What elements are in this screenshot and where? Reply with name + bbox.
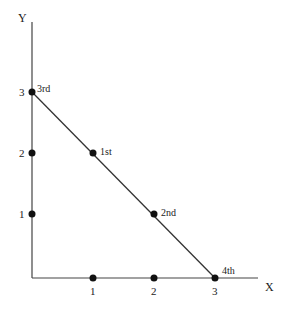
point-0-1 (29, 211, 36, 218)
x-tick-3: 3 (212, 285, 218, 297)
label-2nd: 2nd (161, 207, 176, 218)
point-0-2 (29, 150, 36, 157)
x-axis-label: X (265, 280, 274, 294)
point-1-0 (90, 275, 97, 282)
y-tick-2: 2 (19, 147, 25, 159)
label-1st: 1st (100, 146, 112, 157)
diagonal-line (32, 92, 215, 278)
x-tick-1: 1 (90, 285, 96, 297)
y-axis-label: Y (18, 11, 27, 25)
label-4th: 4th (222, 265, 235, 276)
label-3rd: 3rd (37, 83, 50, 94)
point-1-2 (90, 150, 97, 157)
point-3-0 (212, 275, 219, 282)
y-tick-3: 3 (19, 86, 25, 98)
point-0-3 (29, 89, 36, 96)
y-tick-1: 1 (19, 208, 25, 220)
point-2-0 (151, 275, 158, 282)
coordinate-diagram: Y X 1 2 3 1 2 3 3rd 1st 2nd 4th (0, 0, 287, 310)
x-tick-2: 2 (151, 285, 157, 297)
point-2-1 (151, 211, 158, 218)
